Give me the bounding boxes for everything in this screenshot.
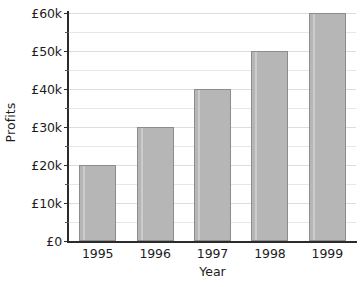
y-tick-mark <box>64 203 69 204</box>
y-tick-mark-minor <box>65 222 69 223</box>
y-tick-label: £40k <box>31 82 62 97</box>
bar[interactable] <box>251 51 288 241</box>
y-tick-label: £20k <box>31 158 62 173</box>
bar[interactable] <box>79 165 116 241</box>
x-tick-label: 1999 <box>312 246 343 261</box>
y-tick-label: £50k <box>31 44 62 59</box>
bar[interactable] <box>309 13 346 241</box>
bar[interactable] <box>194 89 231 241</box>
y-tick-label: £60k <box>31 6 62 21</box>
y-tick-mark-minor <box>65 32 69 33</box>
y-tick-mark-minor <box>65 70 69 71</box>
x-axis-tick-labels: 19951996199719981999 <box>69 246 356 266</box>
plot-area <box>69 13 356 241</box>
y-tick-mark-minor <box>65 146 69 147</box>
x-axis-line <box>67 241 357 243</box>
y-tick-mark <box>64 13 69 14</box>
bar-chart: Profits £0£10k£20k£30k£40k£50k£60k 19951… <box>0 0 361 287</box>
bar[interactable] <box>137 127 174 241</box>
y-tick-label: £30k <box>31 120 62 135</box>
y-tick-mark-minor <box>65 108 69 109</box>
y-tick-mark-minor <box>65 184 69 185</box>
x-axis-title: Year <box>69 264 356 279</box>
x-tick-label: 1995 <box>82 246 113 261</box>
y-tick-mark <box>64 89 69 90</box>
y-axis-title-text: Profits <box>4 103 19 143</box>
y-tick-mark <box>64 165 69 166</box>
y-tick-mark <box>64 51 69 52</box>
x-tick-label: 1998 <box>254 246 285 261</box>
x-tick-label: 1997 <box>197 246 228 261</box>
y-tick-mark <box>64 241 69 242</box>
x-tick-label: 1996 <box>139 246 170 261</box>
y-tick-label: £10k <box>31 196 62 211</box>
y-axis-tick-labels: £0£10k£20k£30k£40k£50k£60k <box>20 0 66 245</box>
y-axis-title: Profits <box>0 0 22 245</box>
y-tick-label: £0 <box>46 234 62 249</box>
y-tick-mark <box>64 127 69 128</box>
